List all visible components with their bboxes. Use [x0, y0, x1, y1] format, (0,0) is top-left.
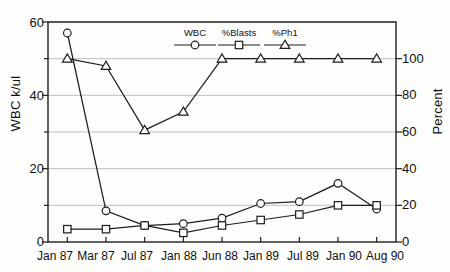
chart-figure: WBC k/ul Percent 60 40 20 0 100 80 60 40…: [0, 0, 450, 272]
gridlines: [48, 22, 396, 205]
y-axis-right-tick-80: 80: [402, 87, 432, 102]
data-point: [373, 202, 380, 209]
data-point: [296, 198, 304, 206]
data-point: [141, 222, 148, 229]
y-axis-right-tick-40: 40: [402, 161, 432, 176]
series--ph1: [63, 54, 382, 134]
legend-marker: [235, 41, 242, 48]
data-point: [180, 220, 188, 228]
data-point: [102, 207, 110, 215]
plot-area: [0, 0, 450, 272]
data-point: [218, 214, 226, 222]
legend-symbols: [174, 40, 306, 49]
legend-marker: [280, 40, 290, 48]
y-axis-left-title: WBC k/ul: [8, 59, 23, 149]
data-point: [296, 211, 303, 218]
data-point: [295, 54, 305, 62]
series-line: [67, 59, 376, 131]
data-point: [64, 29, 72, 37]
data-point: [140, 125, 150, 133]
y-axis-left-tick-0: 0: [16, 234, 44, 249]
data-point: [334, 180, 342, 188]
legend-marker: [191, 41, 199, 49]
data-point: [257, 200, 265, 208]
y-axis-left-tick-20: 20: [16, 161, 44, 176]
y-axis-right-tick-100: 100: [402, 51, 432, 66]
data-point: [218, 222, 225, 229]
y-axis-right-tick-0: 0: [402, 234, 432, 249]
data-point: [217, 54, 227, 62]
x-axis-tick-aug-90: Aug 90: [355, 249, 415, 263]
y-axis-right-tick-20: 20: [402, 197, 432, 212]
y-axis-right-tick-60: 60: [402, 124, 432, 139]
data-point: [256, 54, 266, 62]
y-axis-left-tick-40: 40: [16, 88, 44, 103]
y-axis-right-title: Percent: [430, 67, 445, 157]
y-axis-left-tick-60: 60: [16, 15, 44, 30]
data-point: [334, 202, 341, 209]
legend-label-ph1: %Ph1: [257, 27, 313, 38]
data-point: [257, 216, 264, 223]
data-point: [63, 54, 73, 62]
data-point: [64, 225, 71, 232]
data-point: [333, 54, 343, 62]
data-point: [180, 229, 187, 236]
data-point: [102, 225, 109, 232]
data-point: [372, 54, 382, 62]
